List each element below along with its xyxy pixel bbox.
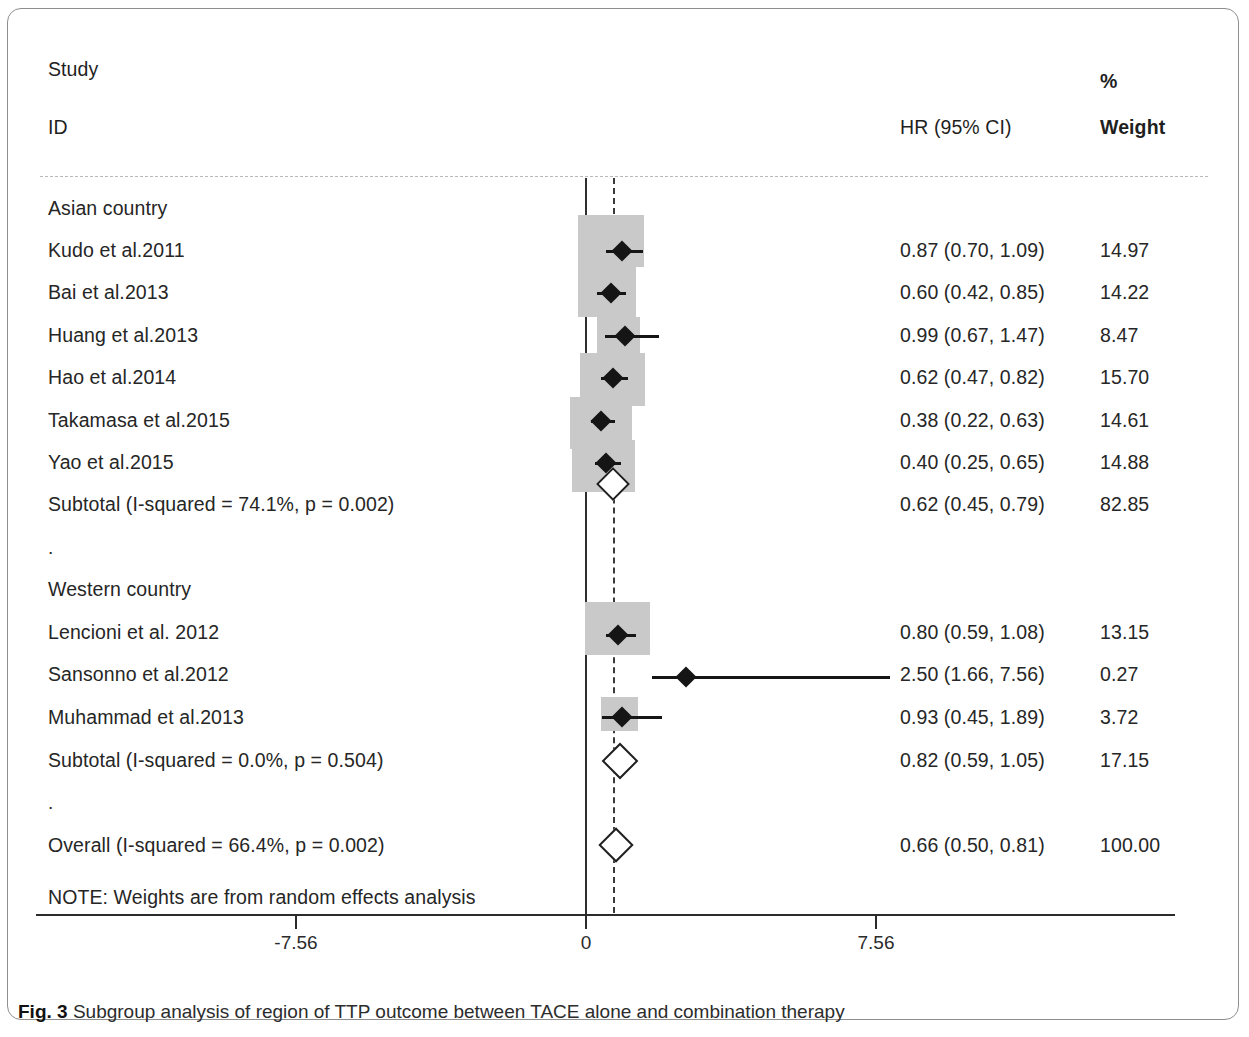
study-effect-value: 0.99 (0.67, 1.47)	[900, 326, 1045, 346]
study-weight-value: 15.70	[1100, 368, 1149, 388]
study-label: Yao et al.2015	[48, 453, 174, 473]
study-weight-value: 13.15	[1100, 623, 1149, 643]
subtotal-label-western: Subtotal (I-squared = 0.0%, p = 0.504)	[48, 751, 384, 771]
study-weight-value: 14.61	[1100, 411, 1149, 431]
subtotal-effect-value: 0.82 (0.59, 1.05)	[900, 751, 1045, 771]
forest-plot-figure: Study ID HR (95% CI) % Weight	[0, 0, 1249, 1037]
x-axis-tick	[295, 916, 297, 929]
study-effect-value: 0.93 (0.45, 1.89)	[900, 708, 1045, 728]
study-effect-value: 2.50 (1.66, 7.56)	[900, 665, 1045, 685]
x-axis-tick-label: 7.56	[858, 932, 895, 954]
study-label: Lencioni et al. 2012	[48, 623, 219, 643]
study-effect-value: 0.87 (0.70, 1.09)	[900, 241, 1045, 261]
study-effect-value: 0.80 (0.59, 1.08)	[900, 623, 1045, 643]
study-weight-value: 14.22	[1100, 283, 1149, 303]
x-axis-line	[36, 914, 1175, 916]
study-label: Muhammad et al.2013	[48, 708, 244, 728]
study-label: Hao et al.2014	[48, 368, 176, 388]
study-effect-value: 0.62 (0.47, 0.82)	[900, 368, 1045, 388]
spacer-dot: .	[48, 538, 53, 557]
subtotal-effect-value: 0.62 (0.45, 0.79)	[900, 495, 1045, 515]
x-axis-tick	[875, 916, 877, 929]
overall-label: Overall (I-squared = 66.4%, p = 0.002)	[48, 836, 385, 856]
subtotal-label-asian: Subtotal (I-squared = 74.1%, p = 0.002)	[48, 495, 394, 515]
x-axis-tick-label: 0	[581, 932, 592, 954]
subtotal-weight-value: 82.85	[1100, 495, 1149, 515]
spacer-dot: .	[48, 793, 53, 812]
plot-graphics-layer: -7.56 0 7.56	[0, 0, 1249, 1037]
group-heading-western: Western country	[48, 580, 191, 600]
overall-weight-value: 100.00	[1100, 836, 1160, 856]
study-weight-value: 8.47	[1100, 326, 1138, 346]
overall-effect-value: 0.66 (0.50, 0.81)	[900, 836, 1045, 856]
study-label: Kudo et al.2011	[48, 241, 185, 261]
study-label: Sansonno et al.2012	[48, 665, 229, 685]
study-effect-value: 0.60 (0.42, 0.85)	[900, 283, 1045, 303]
subtotal-weight-value: 17.15	[1100, 751, 1149, 771]
study-weight-value: 0.27	[1100, 665, 1138, 685]
study-weight-value: 3.72	[1100, 708, 1138, 728]
figure-caption-text: Subgroup analysis of region of TTP outco…	[73, 1001, 845, 1022]
study-weight-value: 14.97	[1100, 241, 1149, 261]
effect-point-marker	[675, 666, 696, 687]
x-axis-tick-label: -7.56	[274, 932, 317, 954]
study-effect-value: 0.40 (0.25, 0.65)	[900, 453, 1045, 473]
figure-caption-label: Fig. 3	[18, 1001, 68, 1022]
study-label: Bai et al.2013	[48, 283, 169, 303]
random-effects-note: NOTE: Weights are from random effects an…	[48, 888, 476, 908]
study-label: Takamasa et al.2015	[48, 411, 230, 431]
overall-diamond-marker	[598, 827, 633, 862]
study-label: Huang et al.2013	[48, 326, 198, 346]
x-axis-tick	[585, 916, 587, 929]
group-heading-asian: Asian country	[48, 199, 167, 219]
study-weight-value: 14.88	[1100, 453, 1149, 473]
subtotal-diamond-marker	[602, 743, 639, 780]
weight-box	[578, 215, 644, 267]
figure-caption: Fig. 3 Subgroup analysis of region of TT…	[18, 1001, 845, 1023]
study-effect-value: 0.38 (0.22, 0.63)	[900, 411, 1045, 431]
